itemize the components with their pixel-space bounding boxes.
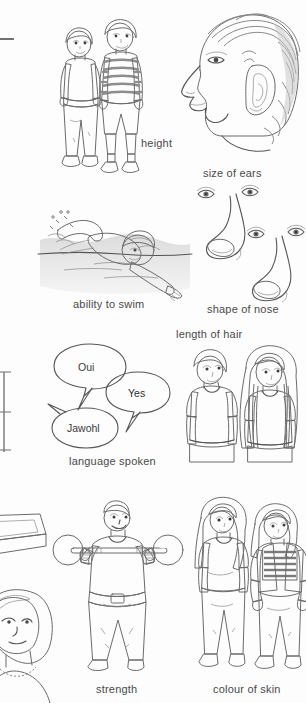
rule-top-left (0, 36, 16, 42)
box-corner-left (0, 512, 48, 574)
bubble-jawohl-text: Jawohl (67, 422, 100, 434)
nose-2 (253, 236, 291, 302)
boy-taller (99, 20, 143, 173)
table-edge-left (0, 372, 12, 452)
figure-shape-of-nose (196, 188, 306, 313)
figure-language-spoken: Oui Yes Jawohl (48, 342, 176, 454)
caption-size-of-ears: size of ears (203, 167, 262, 179)
boy-shorter (60, 28, 101, 167)
caption-length-of-hair: length of hair (176, 328, 242, 340)
bubble-oui-text: Oui (78, 361, 94, 373)
caption-language-spoken: language spoken (69, 455, 156, 467)
bubble-oui: Oui (54, 344, 126, 410)
person-long-hair (240, 346, 297, 462)
figure-length-of-hair (180, 344, 306, 462)
caption-colour-of-skin: colour of skin (213, 683, 281, 695)
girl-lighter-skin (251, 504, 306, 669)
figure-height (48, 14, 158, 184)
caption-shape-of-nose: shape of nose (207, 303, 279, 315)
figure-colour-of-skin (189, 494, 306, 674)
caption-ability-to-swim: ability to swim (73, 298, 144, 310)
figure-ability-to-swim (34, 192, 194, 302)
weight-right (153, 535, 183, 565)
ear (246, 65, 275, 115)
girl-darker-skin (195, 497, 248, 666)
eye-2-left (247, 227, 265, 238)
bubble-yes-text: Yes (128, 387, 145, 399)
illustration-page: height (0, 0, 306, 703)
eye-1-right (241, 185, 259, 196)
caption-height: height (141, 137, 172, 149)
figure-strength (55, 500, 181, 672)
bubble-yes: Yes (106, 372, 170, 432)
eye-2-right (287, 225, 305, 236)
eye-1-left (197, 187, 215, 198)
caption-strength: strength (96, 683, 137, 695)
nose-1 (207, 194, 245, 260)
weight-left (53, 535, 83, 565)
person-short-hair (187, 350, 238, 462)
figure-size-of-ears (178, 8, 306, 168)
bubble-jawohl: Jawohl (48, 404, 118, 448)
